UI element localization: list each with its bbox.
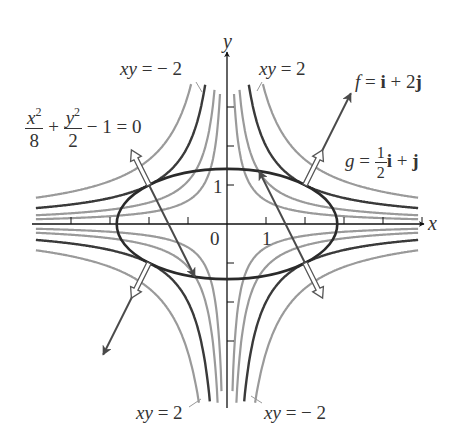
origin-label: 0 xyxy=(210,229,220,248)
hyperbola-xy--0.6 xyxy=(233,229,419,391)
label-leader xyxy=(257,82,262,91)
gradient-g-arrow xyxy=(131,150,151,186)
gradient-g-arrow xyxy=(303,150,323,186)
label-leader xyxy=(196,82,202,92)
gradient-g-arrow xyxy=(303,262,323,298)
label-constraint-equation: x28 + y22 − 1 = 0 xyxy=(25,108,142,150)
lagrange-diagram: y x 0 1 1 xy = − 2 xy = 2 xy = 2 xy = − … xyxy=(0,0,474,442)
fraction-y2-over-2: y22 xyxy=(64,108,82,150)
label-xy-pos2-bottom: xy = 2 xyxy=(136,403,183,422)
y-axis-label: y xyxy=(223,31,232,51)
label-leader xyxy=(189,399,201,407)
label-leader-lines xyxy=(189,82,262,407)
plot-canvas xyxy=(0,0,474,442)
hyperbola-xy-0.6 xyxy=(36,229,222,391)
label-xy-pos2-top: xy = 2 xyxy=(259,59,306,78)
x-axis-label: x xyxy=(428,213,437,233)
y-tick-1-label: 1 xyxy=(213,177,223,196)
label-gradient-g: g = 12i + j xyxy=(345,145,419,181)
label-xy-neg2-top: xy = − 2 xyxy=(120,59,182,78)
gradient-f-arrow xyxy=(149,185,195,277)
gradient-g-arrow xyxy=(131,262,151,298)
label-gradient-f: f = i + 2j xyxy=(355,72,422,91)
fraction-x2-over-8: x28 xyxy=(25,108,43,150)
label-xy-neg2-bottom: xy = − 2 xyxy=(264,403,326,422)
x-tick-1-label: 1 xyxy=(262,229,272,248)
hyperbola-xy--1.1 xyxy=(236,233,418,403)
hyperbola-xy-1.1 xyxy=(36,233,218,403)
fraction-one-half: 12 xyxy=(375,145,387,181)
